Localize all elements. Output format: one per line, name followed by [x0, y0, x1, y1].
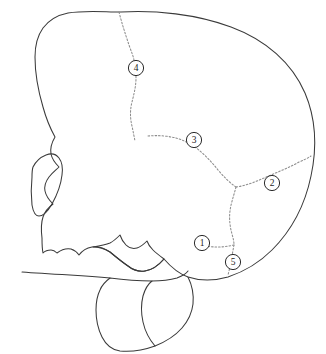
- callout-marker-3[interactable]: 3: [186, 132, 201, 147]
- callout-marker-5[interactable]: 5: [225, 254, 240, 269]
- callout-label-2: 2: [270, 178, 275, 188]
- mandible-inner-contour: [155, 277, 193, 346]
- skull-lateral-view-illustration: 1 2 3 4 5: [0, 0, 326, 354]
- maxilla-lower-edge: [22, 272, 110, 278]
- cranium-face-profile: [35, 11, 315, 280]
- gonial-angle-contour: [152, 271, 188, 281]
- callout-marker-2[interactable]: 2: [264, 175, 279, 190]
- callout-marker-1[interactable]: 1: [194, 235, 209, 250]
- callout-label-4: 4: [134, 63, 139, 73]
- callout-label-5: 5: [231, 257, 236, 267]
- orbit-nasal-aperture: [31, 154, 62, 216]
- skull-diagram-figure: 1 2 3 4 5: [0, 0, 326, 354]
- parietomastoid-descending-suture: [230, 187, 236, 245]
- asterion-branch-suture: [208, 245, 234, 247]
- mandible-outline: [96, 278, 155, 351]
- mandible-ramus-condyle: [93, 235, 164, 271]
- callout-group: 1 2 3 4 5: [128, 60, 279, 269]
- coronal-suture: [119, 12, 136, 141]
- suture-line-group: [119, 12, 311, 275]
- callout-label-1: 1: [200, 238, 205, 248]
- callout-label-3: 3: [192, 135, 197, 145]
- callout-marker-4[interactable]: 4: [128, 60, 143, 75]
